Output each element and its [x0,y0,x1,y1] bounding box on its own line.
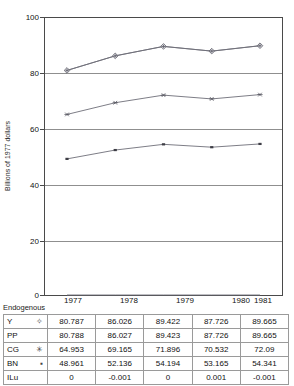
table-cell: -0.001 [96,371,144,385]
table-cell: 71.896 [144,343,192,357]
table-cell: 89.422 [144,315,192,329]
series-y [64,43,263,73]
table-cell: 54.341 [240,357,288,371]
x-tick-1981: 1981 [239,296,287,305]
table-cell: 53.165 [192,357,240,371]
y-tick-100: 100 [26,13,40,22]
table-row: CG✳64.95369.16571.89670.53272.09 [4,343,289,357]
table-cell: 69.165 [96,343,144,357]
gridlines [44,73,283,241]
table-row-header-ilu: ILu [4,371,48,385]
series-line-cg [67,95,260,115]
table-cell: 0.001 [192,371,240,385]
table-cell: 89.665 [240,329,288,343]
series-line-bn [67,144,260,159]
table-cell: 52.136 [96,357,144,371]
chart-canvas: Billions of 1977 dollars 100 80 60 40 20… [0,0,294,300]
series-marker-icon: ✧ [36,318,43,326]
table-cell: 54.194 [144,357,192,371]
marker-bn-0 [65,158,68,160]
table-row: ILu0-0.00100.001-0.001 [4,371,289,385]
table-row: BN▪48.96152.13654.19453.16554.341 [4,357,289,371]
table-cell: 72.09 [240,343,288,357]
table-cell: 86.027 [96,329,144,343]
marker-bn-1 [114,149,117,151]
table-cell: 89.423 [144,329,192,343]
y-tick-80: 80 [30,69,39,78]
line-chart: Billions of 1977 dollars 100 80 60 40 20… [0,0,294,300]
table-row-header-y: Y✧ [4,315,48,329]
table-cell: 80.787 [48,315,96,329]
y-tick-60: 60 [30,125,39,134]
series-marker-icon: ✳ [36,346,43,354]
table-cell: 70.532 [192,343,240,357]
y-axis-ticklabels: 100 80 60 40 20 0 [26,13,40,300]
table-cell: 86.026 [96,315,144,329]
marker-bn-2 [162,143,165,145]
table-cell: 0 [144,371,192,385]
marker-bn-4 [258,143,261,145]
series-bn [65,143,261,160]
y-tick-20: 20 [30,237,39,246]
table-cell: 64.953 [48,343,96,357]
table-cell: 48.961 [48,357,96,371]
y-axis-tickmarks [40,17,44,295]
x-tick-1979: 1979 [161,296,209,305]
table-row-header-pp: PP [4,329,48,343]
x-tick-1978: 1978 [105,296,153,305]
marker-bn-3 [210,146,213,148]
table-row: PP80.78886.02789.42387.72689.665 [4,329,289,343]
endogenous-data-table: Y✧80.78786.02689.42287.72689.665PP80.788… [3,314,289,385]
table-row-header-bn: BN▪ [4,357,48,371]
row-label: BN [7,359,18,368]
table-cell: 0 [48,371,96,385]
table-cell: -0.001 [240,371,288,385]
row-label: Y [7,317,12,326]
y-tick-40: 40 [30,181,39,190]
table-corner-label: Endogenous [3,303,45,312]
series-layer [64,43,263,295]
table-row-header-cg: CG✳ [4,343,48,357]
chart-page: Billions of 1977 dollars 100 80 60 40 20… [0,0,294,386]
series-cg [64,93,262,116]
y-axis-title: Billions of 1977 dollars [4,120,11,191]
data-table-region: 1977 1978 1979 1980 1981 Endogenous Y✧80… [0,296,294,386]
table-row: Y✧80.78786.02689.42287.72689.665 [4,315,289,329]
table-cell: 87.726 [192,315,240,329]
series-marker-icon: ▪ [40,360,43,368]
row-label: PP [7,331,18,340]
row-label: ILu [7,373,18,382]
x-tick-1977: 1977 [49,296,97,305]
table-cell: 80.788 [48,329,96,343]
table-cell: 89.665 [240,315,288,329]
row-label: CG [7,345,19,354]
table-cell: 87.726 [192,329,240,343]
